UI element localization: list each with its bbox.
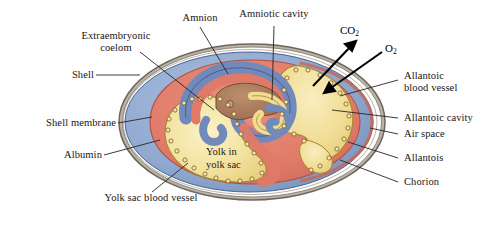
o2-subscript: 2	[393, 47, 397, 56]
label-shell: Shell	[48, 69, 94, 81]
label-allantoic-blood-vessel: Allantoic blood vessel	[404, 70, 498, 95]
label-oxygen: O2	[385, 42, 397, 54]
label-extraembryonic-coelom: Extraembryonic coelom	[56, 30, 176, 55]
label-allantoic-cavity: Allantoic cavity	[404, 112, 500, 124]
label-allantois: Allantois	[404, 152, 474, 164]
egg-anatomy-figure: Extraembryonic coelom Amnion Amniotic ca…	[0, 0, 502, 225]
label-yolk-sac-blood-vessel: Yolk sac blood vessel	[84, 192, 218, 204]
label-air-space: Air space	[404, 128, 476, 140]
o2-text: O	[385, 42, 393, 54]
label-albumin: Albumin	[36, 149, 102, 161]
co2-text: CO	[340, 24, 355, 36]
label-amniotic-cavity: Amniotic cavity	[222, 8, 326, 20]
label-shell-membrane: Shell membrane	[18, 117, 116, 129]
co2-subscript: 2	[355, 29, 359, 38]
label-carbon-dioxide: CO2	[340, 24, 359, 36]
label-chorion: Chorion	[404, 176, 470, 188]
label-yolk-in-yolk-sac: Yolk in yolk sac	[206, 146, 276, 171]
